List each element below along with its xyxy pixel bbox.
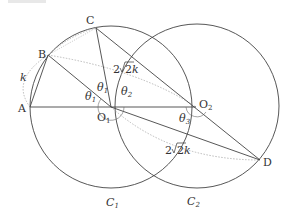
angle-label-theta2: θ2 — [121, 85, 133, 99]
angle-label-theta1-a: θ1 — [85, 90, 96, 104]
length-label-lower: 2 2 k — [165, 143, 191, 157]
segment-c-o1 — [96, 28, 111, 107]
circle-c2 — [115, 24, 279, 188]
point-label-c: C — [86, 14, 94, 27]
geometry-diagram: A B C D O1 O2 θ1 θ1 θ2 θ3 k 2 2 k 2 2 k … — [0, 0, 292, 214]
circle-label-c1: C1 — [106, 196, 119, 210]
svg-text:2: 2 — [113, 63, 120, 76]
point-label-o2: O2 — [199, 98, 213, 112]
length-label-k: k — [20, 71, 27, 84]
dotted-b-o2 — [48, 55, 196, 107]
point-label-b: B — [38, 48, 46, 61]
svg-text:k: k — [184, 144, 191, 157]
point-label-a: A — [17, 102, 27, 115]
arc-k — [23, 55, 48, 107]
point-label-d: D — [263, 156, 272, 169]
svg-text:2: 2 — [177, 144, 184, 157]
svg-text:k: k — [132, 63, 139, 76]
length-label-upper: 2 2 k — [113, 62, 139, 76]
segment-a-b — [30, 55, 48, 107]
svg-text:2: 2 — [125, 63, 132, 76]
point-label-o1: O1 — [97, 111, 111, 125]
circle-label-c2: C2 — [187, 195, 200, 209]
segment-b-c — [48, 28, 96, 55]
angle-label-theta3: θ3 — [179, 112, 191, 126]
svg-text:2: 2 — [165, 144, 172, 157]
